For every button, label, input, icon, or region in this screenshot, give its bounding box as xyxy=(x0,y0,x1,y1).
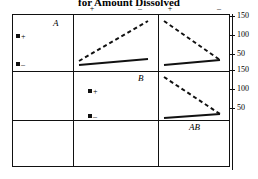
legend-square-icon xyxy=(88,89,92,93)
y-axis-tick-150-2 xyxy=(229,70,235,71)
legend-plus-label: + xyxy=(93,87,98,96)
y-axis-tick-50-1 xyxy=(229,54,235,55)
y-axis-tick-100-1 xyxy=(229,35,235,36)
legend-minus-a: – xyxy=(16,59,25,67)
grid-hline-2 xyxy=(13,120,229,121)
panel-label-ab: AB xyxy=(189,123,200,132)
y-axis-spine-3 xyxy=(232,120,233,170)
legend-minus-label: – xyxy=(93,112,97,121)
panel-r1c3-plot xyxy=(158,15,230,69)
legend-plus-b: + xyxy=(88,86,98,94)
column-header-sign-3: + xyxy=(165,5,175,13)
y-axis-tick-label-100-2: 100 xyxy=(237,85,249,93)
y-axis-tick-label-100-1: 100 xyxy=(237,31,249,39)
y-axis-spine-1 xyxy=(232,14,233,70)
panel-label-a: A xyxy=(53,19,59,28)
y-axis-spine-2 xyxy=(232,70,233,120)
y-axis-tick-100-2 xyxy=(229,89,235,90)
legend-square-icon xyxy=(16,34,20,38)
column-header-sign-4: – xyxy=(214,5,224,13)
y-axis-tick-label-50-2: 50 xyxy=(237,104,245,112)
y-axis-tick-label-150-1: 150 xyxy=(237,12,249,20)
series-solid-line xyxy=(164,114,220,118)
legend-plus-a: + xyxy=(16,31,26,39)
series-dashed-line xyxy=(79,21,148,61)
y-axis-tick-label-150-2: 150 xyxy=(237,66,249,74)
y-axis-tick-150-1 xyxy=(229,16,235,17)
legend-square-icon xyxy=(88,114,92,118)
factorial-interaction-plot-figure: for Amount Dissolved + – + – A + – B + –… xyxy=(0,0,258,179)
series-solid-line xyxy=(164,60,220,65)
y-axis-tick-label-50-1: 50 xyxy=(237,50,245,58)
column-header-sign-1: + xyxy=(87,5,97,13)
panel-label-b: B xyxy=(138,74,144,83)
panel-r1c2-plot xyxy=(73,15,157,69)
series-dashed-line xyxy=(164,21,220,60)
y-axis-tick-50-2 xyxy=(229,108,235,109)
series-dashed-line xyxy=(164,77,220,114)
legend-square-icon xyxy=(16,62,20,66)
column-header-sign-2: – xyxy=(135,5,145,13)
legend-plus-label: + xyxy=(21,32,26,41)
legend-minus-label: – xyxy=(21,60,25,69)
panel-r2c3-plot xyxy=(158,72,230,118)
legend-minus-b: – xyxy=(88,111,97,119)
series-solid-line xyxy=(79,59,148,65)
